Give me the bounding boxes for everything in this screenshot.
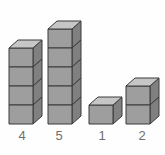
cube-stack-figure: 4512 <box>0 0 165 155</box>
cube <box>89 97 122 124</box>
cube-stack-1 <box>88 96 123 125</box>
stack-label-4: 4 <box>10 128 34 144</box>
stack-label-1: 1 <box>90 128 114 144</box>
cube-front-face <box>48 48 72 67</box>
cube-front-face <box>89 105 113 124</box>
cube-front-face <box>48 67 72 86</box>
cube-front-face <box>48 105 72 124</box>
cube-front-face <box>9 86 33 105</box>
stack-4 <box>8 39 43 125</box>
cube-front-face <box>9 67 33 86</box>
cube-stack-5 <box>47 20 82 125</box>
cube-front-face <box>48 86 72 105</box>
stack-labels-row: 4512 <box>0 125 165 155</box>
stack-2 <box>125 77 160 125</box>
cube-front-face <box>48 29 72 48</box>
stack-5 <box>47 20 82 125</box>
stack-label-5: 5 <box>47 128 71 144</box>
cube-front-face <box>126 86 150 105</box>
cube-front-face <box>9 48 33 67</box>
cube-front-face <box>126 105 150 124</box>
plot-area <box>0 0 165 125</box>
stack-1 <box>88 96 123 125</box>
stack-label-2: 2 <box>130 128 154 144</box>
cube-stack-2 <box>125 77 160 125</box>
cube-front-face <box>9 105 33 124</box>
cube-stack-4 <box>8 39 43 125</box>
